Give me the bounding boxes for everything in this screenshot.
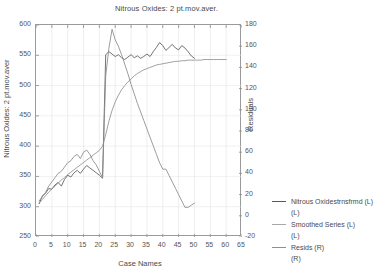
y-right-tick-label: 160 <box>245 41 269 48</box>
y-right-tick-label: 20 <box>245 190 269 197</box>
y-right-tick-label: 140 <box>245 62 269 69</box>
chart-screenshot: Nitrous Oxides: 2 pt.mov.aver. 250300350… <box>0 0 391 275</box>
y-left-tick-label: 250 <box>2 232 31 239</box>
legend-item-axis-tag: (L) <box>272 207 390 219</box>
legend-item-axis-tag: (L) <box>272 230 390 242</box>
y-left-tick-label: 600 <box>2 20 31 27</box>
chart-title: Nitrous Oxides: 2 pt.mov.aver. <box>115 4 218 13</box>
legend-item-label: Smoothed Series (L) <box>291 221 355 228</box>
y-right-tick-label: 60 <box>245 147 269 154</box>
x-axis-label: Case Names <box>100 259 180 268</box>
series-line-1 <box>39 60 226 204</box>
legend-item[interactable]: Smoothed Series (L) <box>272 219 390 230</box>
y-right-tick-label: 40 <box>245 168 269 175</box>
data-series-lines <box>36 25 242 237</box>
y-right-tick-label: 180 <box>245 20 269 27</box>
y-right-tick-label: -20 <box>245 232 269 239</box>
legend-item[interactable]: Nitrous Oxidestrnsfrmd (L) <box>272 196 390 207</box>
legend-item-axis-tag: (R) <box>272 253 390 265</box>
chart-legend: Nitrous Oxidestrnsfrmd (L)(L)Smoothed Se… <box>272 196 390 265</box>
legend-item[interactable]: Resids (R) <box>272 242 390 253</box>
legend-line-icon <box>272 201 286 202</box>
y-axis-right-label: Residuals <box>246 85 255 145</box>
legend-line-icon <box>272 224 286 225</box>
y-right-tick-label: 0 <box>245 211 269 218</box>
x-tick-label: 65 <box>231 241 251 248</box>
legend-item-label: Nitrous Oxidestrnsfrmd (L) <box>291 198 373 205</box>
legend-item-label: Resids (R) <box>291 244 324 251</box>
y-axis-left-label: Nitrous Oxides: 2 pt.mov.aver <box>2 49 11 169</box>
plot-area <box>35 24 241 236</box>
legend-line-icon <box>272 247 286 248</box>
y-left-tick-label: 350 <box>2 171 31 178</box>
y-left-tick-label: 300 <box>2 202 31 209</box>
